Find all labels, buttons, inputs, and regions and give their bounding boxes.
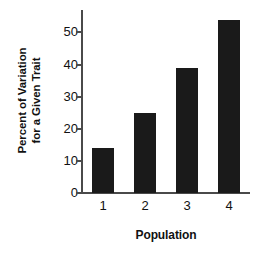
y-axis-tick-label: 40 <box>52 58 78 71</box>
y-axis-title-line-1: Percent of Variation <box>16 47 30 153</box>
bar-4 <box>218 20 240 193</box>
bar-2 <box>134 113 156 193</box>
x-axis-tick-label: 4 <box>214 198 244 214</box>
y-axis-tick-mark <box>76 128 82 130</box>
plot-area <box>82 10 250 193</box>
x-axis-tick-label: 2 <box>130 198 160 214</box>
y-axis-tick-mark <box>76 64 82 66</box>
y-axis-tick-label: 50 <box>52 25 78 38</box>
y-axis-tick-label: 10 <box>52 154 78 167</box>
y-axis-tick-mark <box>76 192 82 194</box>
bar-3 <box>176 68 198 193</box>
y-axis-title-line-2: for a Given Trait <box>29 47 43 153</box>
y-axis-tick-mark <box>76 96 82 98</box>
y-axis-tick-label: 20 <box>52 122 78 135</box>
y-axis-title: Percent of Variation for a Given Trait <box>0 0 58 200</box>
y-axis-tick-mark <box>76 160 82 162</box>
y-axis-tick-mark <box>76 31 82 33</box>
x-axis-tick-label: 1 <box>88 198 118 214</box>
bar-chart-figure: Percent of Variation for a Given Trait 0… <box>0 0 273 260</box>
y-axis-tick-label: 30 <box>52 90 78 103</box>
bar-1 <box>92 148 114 193</box>
y-axis-tick-labels: 01020304050 <box>52 0 78 260</box>
y-axis-tick-label: 0 <box>52 186 78 199</box>
x-axis-tick-label: 3 <box>172 198 202 214</box>
x-axis-tick-labels: 1234 <box>82 198 250 218</box>
x-axis-title: Population <box>82 228 250 242</box>
